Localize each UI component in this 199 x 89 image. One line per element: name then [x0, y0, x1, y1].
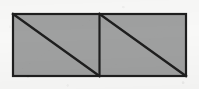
figure-canvas: Rectangle divided into two squares with …: [0, 0, 199, 89]
geometric-figure: Rectangle divided into two squares with …: [0, 0, 199, 89]
